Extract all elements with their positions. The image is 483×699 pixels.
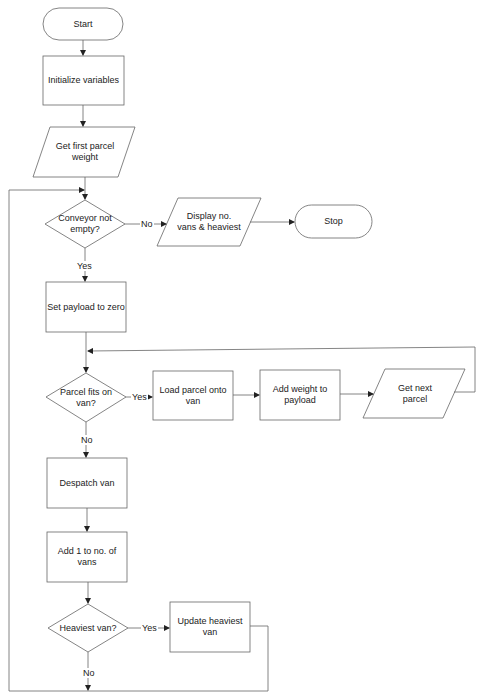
- parcel-fits-decision: Parcel fits on van?: [58, 384, 114, 412]
- conveyor-not-empty-decision: Conveyor not empty?: [55, 210, 115, 238]
- add-weight-step: Add weight to payload: [266, 370, 334, 420]
- edge-label-heaviest-no: No: [82, 668, 96, 678]
- edge-label-conveyor-yes: Yes: [76, 261, 93, 271]
- stop-terminal: Stop: [295, 205, 372, 238]
- load-parcel-step: Load parcel onto van: [153, 371, 233, 420]
- edge-label-fits-no: No: [80, 435, 94, 445]
- initialize-variables-step: Initialize variables: [43, 56, 124, 105]
- update-heaviest-step: Update heaviest van: [170, 602, 250, 652]
- despatch-van-step: Despatch van: [47, 458, 127, 508]
- get-first-parcel-input: Get first parcel weight: [52, 127, 118, 177]
- get-next-parcel-input: Get next parcel: [390, 369, 440, 418]
- heaviest-van-decision: Heaviest van?: [52, 618, 124, 638]
- edge-label-heaviest-yes: Yes: [141, 623, 158, 633]
- edge-label-conveyor-no: No: [140, 219, 154, 229]
- start-terminal: Start: [43, 8, 123, 40]
- set-payload-step: Set payload to zero: [46, 282, 126, 332]
- edge-label-fits-yes: Yes: [131, 392, 148, 402]
- display-results-output: Display no. vans & heaviest: [176, 198, 242, 246]
- add-one-vans-step: Add 1 to no. of vans: [47, 532, 127, 582]
